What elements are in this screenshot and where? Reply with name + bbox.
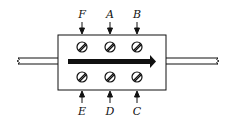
port-B xyxy=(132,42,142,52)
label-E: E xyxy=(75,106,89,118)
port-F xyxy=(77,42,87,52)
left-pipe xyxy=(17,58,58,64)
right-pipe xyxy=(166,58,219,64)
port-E xyxy=(77,72,87,82)
label-F: F xyxy=(75,9,89,21)
label-B: B xyxy=(130,9,144,21)
top-arrows-icon xyxy=(80,22,140,34)
bottom-arrows-icon xyxy=(80,91,140,103)
label-A: A xyxy=(103,9,117,21)
label-C: C xyxy=(130,106,144,118)
port-D xyxy=(105,72,115,82)
port-A xyxy=(105,42,115,52)
port-C xyxy=(132,72,142,82)
label-D: D xyxy=(103,106,117,118)
diagram-canvas xyxy=(0,0,236,123)
